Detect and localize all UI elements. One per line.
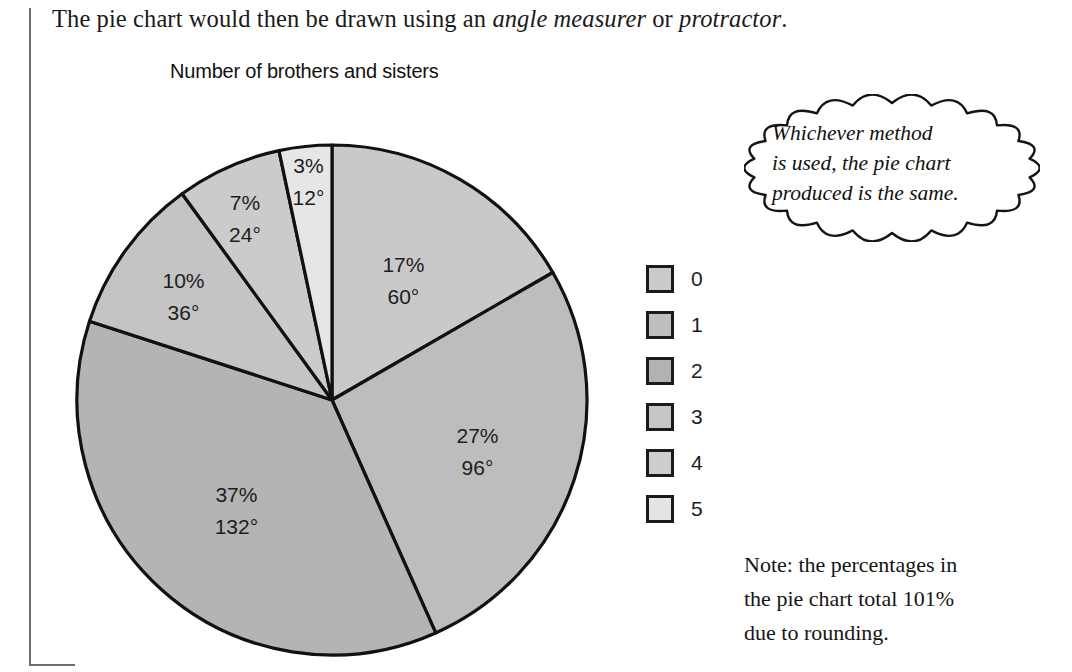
intro-text-middle: or bbox=[646, 5, 679, 32]
legend-item-0[interactable]: 0 bbox=[646, 256, 756, 302]
legend-swatch-4 bbox=[646, 449, 674, 477]
pie-chart: 17%60°27%96°37%132°10%36°7%24°3%12° bbox=[74, 142, 590, 672]
bubble-line-1: Whichever method bbox=[772, 118, 1022, 148]
margin-bracket bbox=[29, 8, 75, 666]
intro-emphasis-protractor: protractor bbox=[679, 5, 781, 32]
note-line-1: Note: the percentages in bbox=[744, 548, 1064, 582]
pie-slice-percent-3: 10% bbox=[162, 269, 204, 292]
pie-slice-percent-4: 7% bbox=[230, 191, 260, 214]
legend-item-5[interactable]: 5 bbox=[646, 486, 756, 532]
intro-emphasis-angle-measurer: angle measurer bbox=[492, 5, 646, 32]
pie-slice-percent-2: 37% bbox=[215, 483, 257, 506]
legend-swatch-2 bbox=[646, 357, 674, 385]
note-line-2: the pie chart total 101% bbox=[744, 582, 1064, 616]
legend-label-0: 0 bbox=[691, 267, 703, 291]
chart-title: Number of brothers and sisters bbox=[170, 60, 439, 83]
bubble-line-2: is used, the pie chart bbox=[772, 148, 1022, 178]
legend-item-1[interactable]: 1 bbox=[646, 302, 756, 348]
legend-swatch-0 bbox=[646, 265, 674, 293]
chart-legend: 012345 bbox=[646, 256, 756, 532]
pie-slice-angle-4: 24° bbox=[229, 223, 261, 246]
pie-slice-angle-2: 132° bbox=[215, 515, 258, 538]
pie-chart-svg: 17%60°27%96°37%132°10%36°7%24°3%12° bbox=[74, 142, 590, 672]
intro-sentence: The pie chart would then be drawn using … bbox=[52, 4, 972, 34]
pie-slice-angle-1: 96° bbox=[462, 456, 494, 479]
legend-label-3: 3 bbox=[691, 405, 703, 429]
legend-swatch-3 bbox=[646, 403, 674, 431]
legend-label-5: 5 bbox=[691, 497, 703, 521]
pie-slice-percent-0: 17% bbox=[382, 253, 424, 276]
legend-label-4: 4 bbox=[691, 451, 703, 475]
legend-item-3[interactable]: 3 bbox=[646, 394, 756, 440]
pie-slice-angle-3: 36° bbox=[168, 301, 200, 324]
legend-item-2[interactable]: 2 bbox=[646, 348, 756, 394]
pie-slices bbox=[77, 145, 587, 655]
pie-slice-percent-1: 27% bbox=[456, 424, 498, 447]
pie-slice-percent-5: 3% bbox=[293, 154, 323, 177]
legend-item-4[interactable]: 4 bbox=[646, 440, 756, 486]
legend-swatch-5 bbox=[646, 495, 674, 523]
legend-label-2: 2 bbox=[691, 359, 703, 383]
intro-text-before: The pie chart would then be drawn using … bbox=[52, 5, 492, 32]
rounding-note: Note: the percentages in the pie chart t… bbox=[744, 548, 1064, 650]
intro-text-after: . bbox=[781, 5, 787, 32]
pie-slice-angle-0: 60° bbox=[388, 285, 420, 308]
note-line-3: due to rounding. bbox=[744, 616, 1064, 650]
pie-slice-angle-5: 12° bbox=[293, 186, 325, 209]
legend-label-1: 1 bbox=[691, 313, 703, 337]
legend-swatch-1 bbox=[646, 311, 674, 339]
thought-bubble-text: Whichever method is used, the pie chart … bbox=[772, 118, 1022, 208]
bubble-line-3: produced is the same. bbox=[772, 178, 1022, 208]
